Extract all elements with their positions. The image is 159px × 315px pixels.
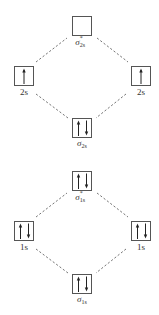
label-subsup: *2s	[80, 38, 89, 47]
dash-left-to-antibonding-1s	[36, 193, 67, 217]
orbital-box-sigma-star-1s	[73, 172, 92, 191]
correlation-lines-2s	[36, 38, 128, 118]
label-2s-right: 2s	[129, 88, 153, 97]
dash-left-to-bonding-1s	[36, 249, 68, 273]
dash-right-to-bonding-2s	[96, 94, 126, 118]
label-subscript: 2s	[80, 42, 85, 48]
orbital-box-sigma-1s	[73, 275, 92, 294]
label-sigma-1s: σ1s	[70, 295, 94, 304]
label-superscript: *	[80, 190, 83, 196]
dash-left-to-bonding-2s	[36, 94, 68, 118]
dash-right-to-bonding-1s	[96, 249, 126, 273]
label-sigma-star-2s: σ*2s	[70, 38, 94, 47]
label-1s-right: 1s	[129, 243, 153, 252]
label-subsup: *1s	[80, 193, 89, 202]
label-sigma-2s: σ2s	[70, 139, 94, 148]
label-2s-left: 2s	[12, 88, 36, 97]
label-subscript: 2s	[82, 143, 87, 149]
correlation-lines-1s	[36, 193, 128, 273]
label-subscript: 1s	[80, 197, 85, 203]
dash-antibonding-to-right-2s	[97, 38, 128, 62]
orbital-box-sigma-star-2s	[73, 17, 92, 36]
label-superscript: *	[80, 35, 83, 41]
mo-diagram: σ*2s 2s 2s σ2s σ*1s 1s 1s σ1s	[0, 0, 159, 315]
label-subscript: 1s	[82, 299, 87, 305]
orbital-box-1s-right	[132, 222, 151, 241]
label-sigma-star-1s: σ*1s	[70, 193, 94, 202]
dash-antibonding-to-right-1s	[97, 193, 128, 217]
orbital-box-sigma-2s	[73, 119, 92, 138]
orbital-box-1s-left	[15, 222, 34, 241]
dash-left-to-antibonding-2s	[36, 38, 67, 62]
label-1s-left: 1s	[12, 243, 36, 252]
